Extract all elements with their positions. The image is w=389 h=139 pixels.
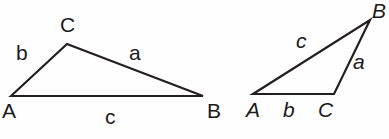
right-triangle-side-label-b: b xyxy=(283,99,295,120)
left-triangle-vertex-label-b: B xyxy=(207,100,221,121)
left-triangle-side-label-c: c xyxy=(105,106,116,127)
right-triangle-vertex-label-b: B xyxy=(372,0,386,21)
right-triangle-side-label-a: a xyxy=(353,51,365,72)
right-triangle-vertex-label-c: C xyxy=(318,99,333,120)
left-triangle-outline xyxy=(11,44,203,96)
left-triangle-side-label-a: a xyxy=(129,42,141,63)
geometry-figure: A C B b a c A C B c a b xyxy=(0,0,389,139)
right-triangle-vertex-label-a: A xyxy=(246,99,260,120)
left-triangle-side-label-b: b xyxy=(16,42,28,63)
left-triangle-vertex-label-a: A xyxy=(2,100,16,121)
right-triangle-side-label-c: c xyxy=(296,30,307,51)
left-triangle-vertex-label-c: C xyxy=(60,14,75,35)
